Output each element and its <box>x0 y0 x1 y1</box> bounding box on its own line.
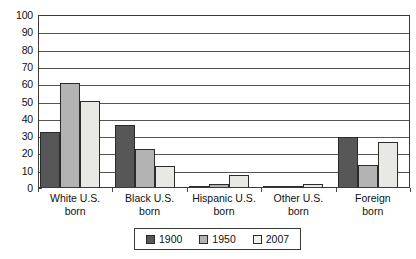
bar <box>283 186 303 187</box>
bar-group <box>338 16 398 187</box>
bar-group <box>263 16 323 187</box>
x-axis-category-label-line: born <box>336 205 410 218</box>
bar-group <box>115 16 175 187</box>
x-axis-category-label-line: born <box>38 205 112 218</box>
bar <box>209 184 229 187</box>
bar-group <box>40 16 100 187</box>
y-axis-tick-label: 50 <box>7 97 33 107</box>
y-axis-tick-label: 80 <box>7 45 33 55</box>
x-axis-category-label-line: Other U.S. <box>261 192 335 205</box>
x-axis-labels: White U.S.bornBlack U.S.bornHispanic U.S… <box>38 192 410 224</box>
y-axis: 1009080706050403020100 <box>5 15 33 188</box>
y-axis-tick-label: 30 <box>7 131 33 141</box>
legend-swatch <box>253 235 262 244</box>
bar <box>60 83 80 187</box>
x-axis-tick-mark <box>410 188 411 192</box>
bar <box>358 165 378 187</box>
bar <box>189 186 209 187</box>
plot-area <box>38 15 410 188</box>
x-axis-category-label: Foreignborn <box>336 192 410 217</box>
bars-layer <box>39 16 409 187</box>
bar <box>229 175 249 187</box>
x-axis-category-label-line: Hispanic U.S. <box>187 192 261 205</box>
legend-label: 2007 <box>266 234 289 245</box>
x-axis-category-label-line: born <box>112 205 186 218</box>
bar <box>135 149 155 187</box>
bar <box>338 137 358 187</box>
legend-label: 1950 <box>212 234 235 245</box>
bar <box>80 101 100 188</box>
x-axis-category-label: Hispanic U.S.born <box>187 192 261 217</box>
bar <box>303 184 323 187</box>
y-axis-tick-label: 0 <box>7 183 33 193</box>
bar <box>263 186 283 187</box>
y-axis-tick-label: 10 <box>7 166 33 176</box>
x-axis-category-label-line: Black U.S. <box>112 192 186 205</box>
x-axis-category-label-line: Foreign <box>336 192 410 205</box>
y-axis-tick-label: 100 <box>7 10 33 20</box>
legend-item: 1950 <box>199 234 235 245</box>
legend-item: 2007 <box>253 234 289 245</box>
legend-label: 1900 <box>159 234 182 245</box>
legend-swatch <box>146 235 155 244</box>
bar <box>40 132 60 187</box>
y-axis-tick-label: 90 <box>7 27 33 37</box>
x-axis-category-label-line: born <box>187 205 261 218</box>
x-axis-category-label: Other U.S.born <box>261 192 335 217</box>
legend-item: 1900 <box>146 234 182 245</box>
bar <box>115 125 135 187</box>
y-axis-tick-label: 40 <box>7 114 33 124</box>
legend-swatch <box>199 235 208 244</box>
x-axis-category-label-line: born <box>261 205 335 218</box>
x-axis-category-label-line: White U.S. <box>38 192 112 205</box>
chart-legend: 190019502007 <box>134 228 301 250</box>
y-axis-tick-label: 70 <box>7 62 33 72</box>
y-axis-tick-label: 60 <box>7 79 33 89</box>
x-axis-category-label: Black U.S.born <box>112 192 186 217</box>
bar-chart-figure: 1009080706050403020100 White U.S.bornBla… <box>0 0 416 259</box>
bar <box>378 142 398 187</box>
x-axis-category-label: White U.S.born <box>38 192 112 217</box>
bar <box>155 166 175 187</box>
bar-group <box>189 16 249 187</box>
y-axis-tick-label: 20 <box>7 148 33 158</box>
